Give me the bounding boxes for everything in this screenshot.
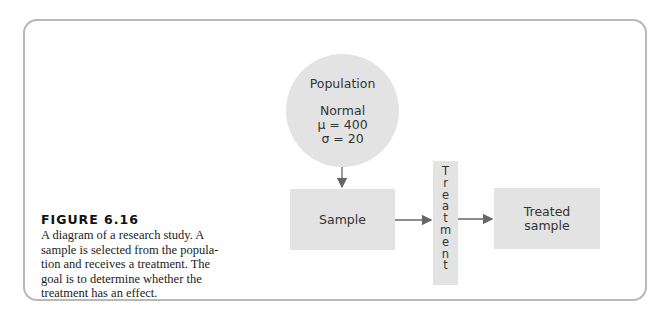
treated-sample-label-line2: sample <box>524 219 571 233</box>
sample-label: Sample <box>319 213 366 227</box>
population-circle: Population Normal μ = 400 σ = 20 <box>286 54 399 167</box>
sample-box: Sample <box>290 189 395 250</box>
population-title: Population <box>286 76 399 91</box>
population-mean: μ = 400 <box>286 118 399 132</box>
treatment-bar: T r e a t m e n t <box>433 161 458 285</box>
treated-sample-label-line1: Treated <box>524 205 571 219</box>
treated-sample-box: Treated sample <box>494 188 600 249</box>
population-sd: σ = 20 <box>286 132 399 146</box>
population-distribution: Normal <box>286 104 399 118</box>
